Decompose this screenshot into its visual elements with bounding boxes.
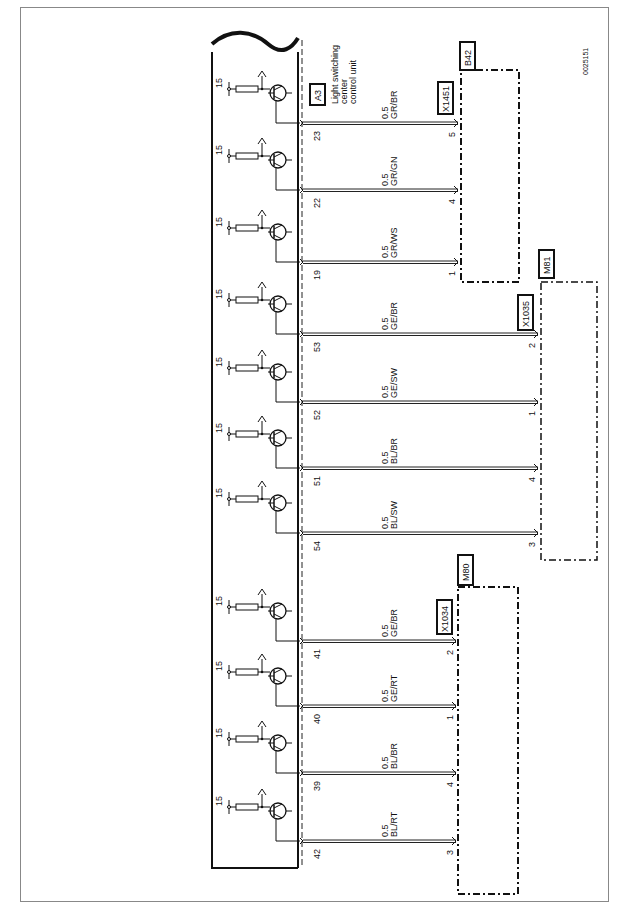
resistor-icon <box>236 736 258 742</box>
connector-pin-number: 3 <box>527 542 537 547</box>
wire-stage-54: 15540.5BL/SW3 <box>214 481 538 551</box>
wiring-diagram: 0025151 A3 Light switching center contro… <box>0 0 619 915</box>
resistor-icon <box>236 431 258 437</box>
cu-pin-number: 23 <box>312 131 322 141</box>
component-b42: B42 X1451 <box>438 42 519 282</box>
wire-stage-40: 15400.5GE/RT1 <box>214 654 456 724</box>
supply-label: 15 <box>214 217 224 227</box>
wire-color: GE/SW <box>389 367 399 398</box>
cu-pin-number: 54 <box>312 541 322 551</box>
resistor-icon <box>236 496 258 502</box>
component-b42-box <box>461 70 519 282</box>
supply-label: 15 <box>214 289 224 299</box>
wire-color: GE/BR <box>389 608 399 637</box>
supply-label: 15 <box>214 488 224 498</box>
cu-pin-number: 40 <box>312 714 322 724</box>
component-m81-box <box>541 282 597 560</box>
cu-pin-number: 41 <box>312 649 322 659</box>
component-m80-id: M80 <box>461 563 471 581</box>
resistor-icon <box>236 365 258 371</box>
component-b42-id: B42 <box>463 50 473 66</box>
supply-label: 15 <box>214 596 224 606</box>
wire-stage-39: 15390.5BL/BR4 <box>214 721 456 791</box>
cu-pin-number: 53 <box>312 342 322 352</box>
connector-x1034: X1034 <box>440 606 450 632</box>
component-m80: M80 X1034 <box>437 555 518 894</box>
component-m81-id: M81 <box>542 256 552 274</box>
connector-pin-number: 1 <box>447 271 457 276</box>
control-unit-label-3: control unit <box>348 59 358 104</box>
resistor-icon <box>236 86 258 92</box>
component-m81: M81 X1035 <box>518 250 597 560</box>
supply-label: 15 <box>214 357 224 367</box>
component-m80-box <box>458 587 518 894</box>
connector-pin-number: 1 <box>445 715 455 720</box>
resistor-icon <box>236 153 258 159</box>
cu-pin-number: 42 <box>312 849 322 859</box>
connector-pin-number: 4 <box>445 782 455 787</box>
wire-color: GR/BR <box>389 90 399 119</box>
connector-pin-number: 4 <box>527 477 537 482</box>
supply-label: 15 <box>214 78 224 88</box>
wire-stage-53: 15530.5GE/BR2 <box>214 282 538 352</box>
connector-pin-number: 5 <box>447 132 457 137</box>
wire-color: GR/WS <box>389 228 399 259</box>
wire-color: BL/SW <box>389 500 399 529</box>
figure-id: 0025151 <box>582 48 589 75</box>
wire-color: BL/RT <box>389 811 399 837</box>
cu-pin-number: 39 <box>312 781 322 791</box>
wire-color: GE/RT <box>389 674 399 702</box>
supply-label: 15 <box>214 661 224 671</box>
cu-pin-number: 19 <box>312 270 322 280</box>
connector-pin-number: 2 <box>445 650 455 655</box>
resistor-icon <box>236 297 258 303</box>
cu-pin-number: 52 <box>312 410 322 420</box>
connector-x1035: X1035 <box>521 301 531 327</box>
wire-color: GE/BR <box>389 301 399 330</box>
control-unit-id: A3 <box>313 90 323 101</box>
wire-stage-22: 15220.5GR/GN4 <box>214 138 458 208</box>
resistor-icon <box>236 225 258 231</box>
wire-stage-42: 15420.5BL/RT3 <box>214 789 456 859</box>
wire-stage-52: 15520.5GE/SW1 <box>214 350 538 420</box>
connector-pin-number: 4 <box>447 199 457 204</box>
resistor-icon <box>236 604 258 610</box>
supply-label: 15 <box>214 796 224 806</box>
supply-label: 15 <box>214 423 224 433</box>
wire-stage-19: 15190.5GR/WS1 <box>214 210 458 280</box>
wire-color: GR/GN <box>389 156 399 186</box>
resistor-icon <box>236 669 258 675</box>
supply-label: 15 <box>214 728 224 738</box>
wire-stage-41: 15410.5GE/BR2 <box>214 589 456 659</box>
wire-stage-51: 15510.5BL/BR4 <box>214 416 538 486</box>
wire-color: BL/BR <box>389 742 399 769</box>
cu-pin-number: 51 <box>312 476 322 486</box>
resistor-icon <box>236 804 258 810</box>
wire-color: BL/BR <box>389 437 399 464</box>
connector-pin-number: 3 <box>445 850 455 855</box>
connector-pin-number: 2 <box>527 343 537 348</box>
supply-label: 15 <box>214 145 224 155</box>
cu-pin-number: 22 <box>312 198 322 208</box>
connector-x1451: X1451 <box>441 86 451 112</box>
connector-pin-number: 1 <box>527 411 537 416</box>
